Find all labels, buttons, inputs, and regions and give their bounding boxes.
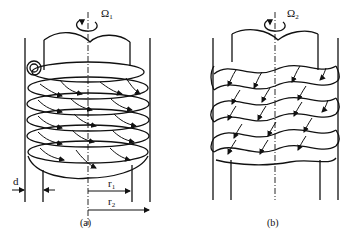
panel-b-drawing — [211, 12, 339, 200]
vortex-cross-section — [27, 61, 41, 75]
omega-label-b: Ω2 — [287, 8, 299, 21]
r2-label: r2 — [108, 196, 115, 209]
caption-b: (b) — [267, 218, 279, 228]
r1-subscript: 1 — [112, 183, 116, 191]
r2-subscript: 2 — [112, 201, 116, 209]
r1-label: r1 — [108, 178, 115, 191]
omega-label-a: Ω1 — [101, 8, 113, 21]
gap-label-d: d — [13, 176, 19, 187]
rotation-arrow-a — [77, 20, 98, 31]
diagram-canvas — [0, 0, 353, 237]
omega-symbol-b: Ω — [287, 7, 295, 19]
omega-subscript-b: 2 — [295, 13, 299, 21]
caption-a: (a) — [80, 218, 91, 228]
omega-symbol: Ω — [101, 7, 109, 19]
inner-cylinder-top-a — [44, 33, 130, 42]
omega-subscript: 1 — [109, 13, 113, 21]
panel-a-drawing — [12, 12, 150, 225]
